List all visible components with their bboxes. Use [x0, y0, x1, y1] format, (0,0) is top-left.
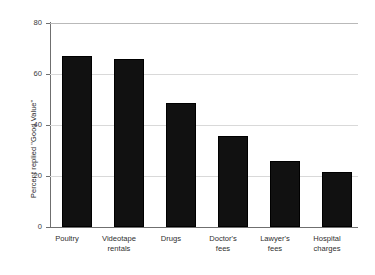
bar-hospital-charges [322, 172, 352, 227]
gridline-80 [50, 23, 358, 24]
x-axis-line [50, 227, 358, 228]
y-tick-label-0: 0 [18, 223, 42, 231]
y-tick-label-80: 80 [18, 19, 42, 27]
plot-area: 80 60 40 20 0 [50, 23, 358, 227]
y-tick-label-60: 60 [18, 70, 42, 78]
bar-poultry [62, 56, 92, 227]
tickmark-80 [46, 23, 50, 24]
y-tick-label-20: 20 [18, 172, 42, 180]
y-axis-title: Percent replied "Good Value" [28, 8, 40, 198]
tickmark-0 [46, 227, 50, 228]
gridline-20 [50, 176, 358, 177]
tickmark-40 [46, 125, 50, 126]
x-label-hospital-charges: Hospital charges [298, 234, 356, 253]
gridline-60 [50, 74, 358, 75]
bar-lawyers-fees [270, 161, 300, 227]
bar-doctors-fees [218, 136, 248, 227]
tickmark-20 [46, 176, 50, 177]
tickmark-60 [46, 74, 50, 75]
bar-chart: Percent replied "Good Value" 80 60 40 20 [0, 0, 375, 275]
x-label-doctors-fees: Doctor's fees [194, 234, 252, 253]
bar-drugs [166, 103, 196, 227]
gridline-40 [50, 125, 358, 126]
x-label-drugs: Drugs [142, 234, 200, 244]
x-label-lawyers-fees: Lawyer's fees [246, 234, 304, 253]
y-tick-label-40: 40 [18, 121, 42, 129]
bar-videotape-rentals [114, 59, 144, 227]
x-label-poultry: Poultry [38, 234, 96, 244]
x-label-videotape-rentals: Videotape rentals [90, 234, 148, 253]
